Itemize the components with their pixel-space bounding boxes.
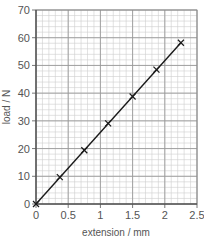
- grid: [36, 10, 197, 204]
- x-tick-label: 0: [33, 209, 39, 221]
- x-tick-label: 1: [97, 209, 103, 221]
- y-axis-label: load / N: [1, 90, 12, 124]
- y-tick-label: 70: [18, 4, 30, 16]
- load-extension-chart: 010203040506070 00.511.522.5 extension /…: [0, 0, 204, 241]
- y-tick-label: 20: [18, 143, 30, 155]
- y-tick-label: 10: [18, 170, 30, 182]
- data-point-marker: [178, 40, 184, 46]
- x-tick-label: 2: [162, 209, 168, 221]
- x-tick-label: 0.5: [61, 209, 76, 221]
- x-tick-label: 1.5: [125, 209, 140, 221]
- y-tick-label: 50: [18, 59, 30, 71]
- x-tick-label: 2.5: [189, 209, 204, 221]
- y-tick-label: 30: [18, 115, 30, 127]
- x-axis-label: extension / mm: [82, 227, 150, 238]
- axes: [32, 10, 197, 208]
- y-tick-label: 60: [18, 32, 30, 44]
- plot-border: [36, 10, 197, 204]
- y-tick-label: 40: [18, 87, 30, 99]
- y-tick-labels: 010203040506070: [18, 4, 30, 210]
- y-tick-label: 0: [24, 198, 30, 210]
- x-tick-labels: 00.511.522.5: [33, 209, 204, 221]
